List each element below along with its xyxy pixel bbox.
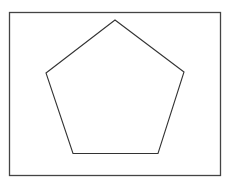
pentagon-shape <box>46 20 184 154</box>
diagram-frame <box>10 13 221 176</box>
diagram-canvas <box>0 0 228 185</box>
